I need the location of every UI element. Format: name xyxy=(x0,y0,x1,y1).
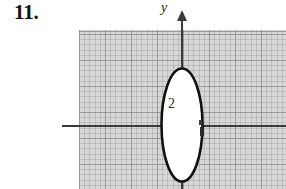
vertex-tick-mark-upper xyxy=(199,120,202,125)
arrow-up-icon xyxy=(177,10,187,21)
vertex-tick-mark xyxy=(200,127,204,136)
semi-axis-length-label: 2 xyxy=(168,97,175,111)
ellipse-curve xyxy=(152,58,214,189)
y-axis-label: y xyxy=(161,1,167,15)
problem-number: 11. xyxy=(14,2,39,23)
figure-canvas: 11. y 2 xyxy=(0,0,286,189)
